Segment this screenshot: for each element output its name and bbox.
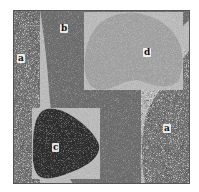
label-c: c [52, 143, 59, 152]
phantom-svg [13, 10, 190, 184]
label-d: d [143, 48, 151, 57]
phantom-image: a b d c a [13, 10, 190, 184]
label-a-left: a [17, 54, 25, 63]
label-b: b [60, 24, 68, 33]
label-a-right: a [163, 124, 171, 133]
